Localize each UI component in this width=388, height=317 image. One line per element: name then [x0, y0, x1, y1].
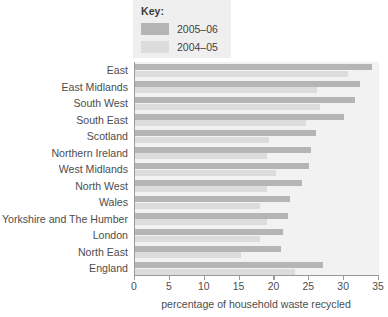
- x-axis-tick-label: 5: [166, 281, 172, 292]
- bar-2005-06: [135, 213, 288, 219]
- legend-item-2005-06: 2005–06: [141, 20, 231, 37]
- y-axis-label: East: [107, 62, 128, 79]
- y-axis-label: East Midlands: [61, 79, 128, 96]
- bar-group: [135, 211, 379, 228]
- bar-2004-05: [135, 137, 269, 143]
- bar-2005-06: [135, 180, 302, 186]
- legend-label-2004-05: 2004–05: [177, 41, 218, 53]
- x-axis-line: [134, 275, 378, 276]
- bar-2004-05: [135, 71, 348, 77]
- x-axis-tick: [378, 275, 379, 280]
- bar-2004-05: [135, 269, 295, 275]
- x-axis-tick-label: 10: [198, 281, 210, 292]
- x-axis-tick-label: 35: [372, 281, 384, 292]
- bar-group: [135, 178, 379, 195]
- plot-area-wrapper: EastEast MidlandsSouth WestSouth EastSco…: [0, 62, 388, 317]
- legend-item-2004-05: 2004–05: [141, 38, 231, 55]
- legend-swatch-2004-05: [141, 41, 169, 53]
- bar-chart: Key: 2005–06 2004–05 EastEast MidlandsSo…: [0, 0, 388, 317]
- bar-2005-06: [135, 130, 316, 136]
- legend-label-2005-06: 2005–06: [177, 23, 218, 35]
- bar-group: [135, 161, 379, 178]
- bar-group: [135, 79, 379, 96]
- x-axis-tick-label: 30: [337, 281, 349, 292]
- bar-2004-05: [135, 87, 317, 93]
- y-axis-label: Northern Ireland: [51, 145, 128, 162]
- x-axis-tick: [343, 275, 344, 280]
- bar-2005-06: [135, 81, 360, 87]
- x-axis-tick: [239, 275, 240, 280]
- bar-group: [135, 194, 379, 211]
- bar-2005-06: [135, 97, 355, 103]
- x-axis-tick: [273, 275, 274, 280]
- bar-2005-06: [135, 147, 311, 153]
- bar-2004-05: [135, 104, 320, 110]
- bar-group: [135, 112, 379, 129]
- bar-2004-05: [135, 153, 267, 159]
- x-axis-tick: [308, 275, 309, 280]
- y-axis-label: West Midlands: [59, 161, 128, 178]
- bar-group: [135, 244, 379, 261]
- y-axis-label: North East: [78, 244, 128, 261]
- y-axis-label: South East: [76, 112, 128, 129]
- bar-group: [135, 95, 379, 112]
- y-axis-category-labels: EastEast MidlandsSouth WestSouth EastSco…: [0, 62, 132, 277]
- y-axis-label: South West: [73, 95, 128, 112]
- plot-area: [134, 62, 379, 275]
- bar-2004-05: [135, 219, 267, 225]
- bar-2004-05: [135, 236, 260, 242]
- y-axis-label: London: [93, 227, 128, 244]
- bar-group: [135, 145, 379, 162]
- bar-2004-05: [135, 170, 276, 176]
- legend-swatch-2005-06: [141, 23, 169, 35]
- bar-2005-06: [135, 196, 290, 202]
- y-axis-label: England: [89, 260, 128, 277]
- chart-legend: Key: 2005–06 2004–05: [133, 0, 231, 58]
- bar-2004-05: [135, 120, 306, 126]
- bar-2005-06: [135, 229, 283, 235]
- bar-2004-05: [135, 203, 260, 209]
- x-axis-tick: [169, 275, 170, 280]
- x-axis-tick: [134, 275, 135, 280]
- bar-2005-06: [135, 262, 323, 268]
- bar-2004-05: [135, 252, 241, 258]
- y-axis-label: Yorkshire and The Humber: [2, 211, 128, 228]
- legend-title: Key:: [141, 5, 231, 17]
- x-axis-tick: [204, 275, 205, 280]
- bar-group: [135, 62, 379, 79]
- x-axis-tick-label: 15: [233, 281, 245, 292]
- bar-2005-06: [135, 114, 344, 120]
- y-axis-label: Scotland: [87, 128, 128, 145]
- bar-2004-05: [135, 186, 267, 192]
- bar-group: [135, 227, 379, 244]
- y-axis-label: Wales: [99, 194, 128, 211]
- bar-2005-06: [135, 64, 372, 70]
- bar-2005-06: [135, 163, 309, 169]
- x-axis-tick-label: 25: [303, 281, 315, 292]
- x-axis-tick-label: 0: [131, 281, 137, 292]
- x-axis-tick-label: 20: [268, 281, 280, 292]
- bar-group: [135, 128, 379, 145]
- y-axis-label: North West: [75, 178, 128, 195]
- x-axis-title: percentage of household waste recycled: [134, 298, 378, 310]
- bar-2005-06: [135, 246, 281, 252]
